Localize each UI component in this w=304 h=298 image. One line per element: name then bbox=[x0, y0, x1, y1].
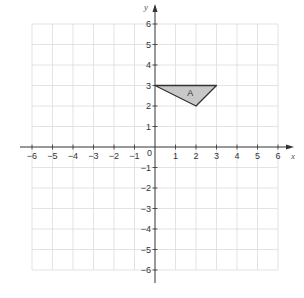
x-tick-label: −1 bbox=[129, 151, 139, 161]
x-tick-label: −6 bbox=[27, 151, 37, 161]
x-tick-label: 3 bbox=[214, 151, 219, 161]
y-axis-label: y bbox=[143, 2, 148, 12]
y-tick-label: −4 bbox=[141, 224, 151, 234]
x-tick-label: 6 bbox=[275, 151, 280, 161]
x-tick-label: 2 bbox=[193, 151, 198, 161]
shapes: A bbox=[155, 86, 217, 107]
y-tick-label: −3 bbox=[141, 204, 151, 214]
y-tick-label: −5 bbox=[141, 245, 151, 255]
x-axis-arrow-icon bbox=[286, 145, 294, 150]
x-tick-label: 5 bbox=[255, 151, 260, 161]
shape-label: A bbox=[187, 88, 193, 98]
y-tick-label: −6 bbox=[141, 265, 151, 275]
y-tick-label: −1 bbox=[141, 163, 151, 173]
x-tick-label: −4 bbox=[68, 151, 78, 161]
x-tick-label: −5 bbox=[47, 151, 57, 161]
x-tick-label: −2 bbox=[109, 151, 119, 161]
x-tick-label: 1 bbox=[173, 151, 178, 161]
x-axis-label: x bbox=[290, 151, 295, 161]
x-tick-label: −3 bbox=[88, 151, 98, 161]
y-axis-arrow-icon bbox=[153, 4, 158, 12]
y-tick-label: −2 bbox=[141, 183, 151, 193]
y-tick-label: 6 bbox=[146, 19, 151, 29]
y-tick-label: 4 bbox=[146, 60, 151, 70]
coordinate-plane: x y 0 −6−5−4−3−2−1123456654321−1−2−3−4−5… bbox=[0, 0, 304, 298]
origin-label: 0 bbox=[147, 148, 152, 158]
y-tick-label: 5 bbox=[146, 40, 151, 50]
y-tick-label: 1 bbox=[146, 122, 151, 132]
y-tick-label: 3 bbox=[146, 81, 151, 91]
y-tick-label: 2 bbox=[146, 101, 151, 111]
x-tick-label: 4 bbox=[234, 151, 239, 161]
triangle-a bbox=[155, 86, 217, 107]
